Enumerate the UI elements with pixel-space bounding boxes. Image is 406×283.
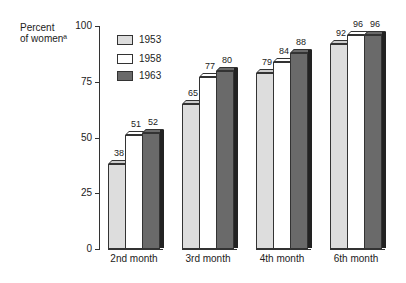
bar-1953-3rd-month: [182, 104, 200, 249]
group-baseline: [182, 249, 237, 250]
bar-1958-4th-month: [273, 62, 291, 249]
legend-1963: 1963: [117, 70, 161, 82]
y-tick-label: 100: [60, 21, 92, 31]
bar-side-shadow: [160, 130, 164, 248]
legend-label: 1963: [139, 70, 161, 82]
bar-1953-6th-month: [330, 44, 348, 249]
y-tick: [95, 193, 99, 194]
swatch-1958: [117, 54, 133, 64]
bar-1963-6th-month: [364, 35, 382, 249]
group-baseline: [108, 249, 163, 250]
y-tick-label: 50: [60, 133, 92, 143]
value-label: 80: [217, 55, 237, 65]
y-tick: [95, 26, 99, 27]
bar-1963-3rd-month: [216, 71, 234, 249]
bar-1958-3rd-month: [199, 77, 217, 249]
y-tick: [95, 138, 99, 139]
x-category-label: 6th month: [326, 253, 386, 264]
x-category-label: 4th month: [252, 253, 312, 264]
bar-1953-2nd-month: [108, 164, 126, 249]
y-tick-label: 75: [60, 77, 92, 87]
legend-label: 1958: [139, 53, 161, 65]
group-baseline: [330, 249, 385, 250]
y-label-line2: of womenª: [20, 33, 67, 44]
legend-label: 1953: [139, 34, 161, 46]
y-tick: [95, 82, 99, 83]
group-baseline: [256, 249, 311, 250]
bar-1958-6th-month: [347, 35, 365, 249]
y-axis-line: [99, 26, 100, 250]
y-tick-label: 25: [60, 188, 92, 198]
swatch-1963: [117, 71, 133, 81]
y-tick: [95, 249, 99, 250]
legend-1958: 1958: [117, 53, 161, 65]
bar-side-shadow: [308, 50, 312, 248]
bar-side-shadow: [234, 68, 238, 248]
bar-side-shadow: [382, 32, 386, 248]
x-category-label: 3rd month: [178, 253, 238, 264]
swatch-1953: [117, 35, 133, 45]
y-tick-label: 0: [60, 244, 92, 254]
value-label: 96: [365, 19, 385, 29]
legend-1953: 1953: [117, 34, 161, 46]
x-category-label: 2nd month: [104, 253, 164, 264]
bar-1963-2nd-month: [142, 133, 160, 249]
value-label: 88: [291, 37, 311, 47]
bar-1958-2nd-month: [125, 135, 143, 249]
bar-1953-4th-month: [256, 73, 274, 249]
bar-1963-4th-month: [290, 53, 308, 249]
value-label: 52: [143, 117, 163, 127]
